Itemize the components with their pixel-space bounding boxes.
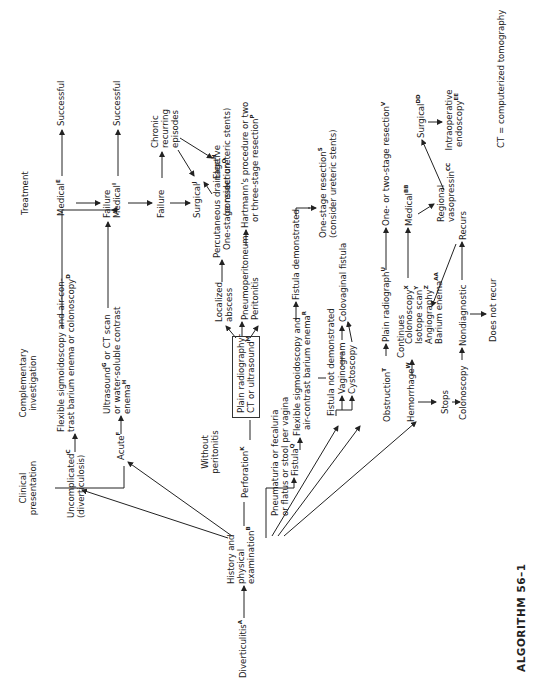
node-chronic-recurring: Chronic recurring episodes — [150, 109, 180, 148]
node-medical-i: MedicalI — [112, 183, 122, 218]
node-localized-abscess: Localized abscess — [214, 282, 234, 322]
node-flexible-sigmoidoscopy-2: Flexible sigmoidoscopy and air-contrast … — [292, 311, 312, 436]
node-pneumaturia: Pneumaturia or fecaluria or flatus or st… — [270, 397, 290, 516]
node-failure-2: Failure — [156, 190, 166, 218]
node-regional-vasopressin: Regional vasopressinCC — [436, 163, 456, 222]
node-fistula: FistulaQ — [290, 444, 300, 476]
node-history-physical: History and physical examinationB — [226, 526, 256, 584]
node-fistula-demonstrated: Fistula demonstrated — [291, 209, 301, 300]
algorithm-flowchart: Clinical presentation Complementary inve… — [0, 0, 537, 678]
node-hartmann: Hartmann's procedure or two or three-sta… — [240, 102, 260, 228]
node-colonoscopy: Colonoscopy — [458, 365, 468, 420]
node-recurs: Recurs — [458, 211, 468, 240]
node-successful-2: Successful — [112, 81, 122, 126]
node-plain-radiograph: Plain radiographU — [381, 267, 391, 342]
node-cystoscopy: Cystoscopy — [347, 345, 357, 394]
node-acute: AcuteF — [116, 432, 126, 460]
node-failure-1: Failure — [102, 190, 112, 218]
node-flexible-sigmoidoscopy: Flexible sigmoidoscopy and air-con- tras… — [56, 274, 76, 432]
node-obstruction: ObstructionT — [382, 368, 392, 422]
footnote-ct: CT = computerized tomography — [496, 10, 506, 148]
node-colonoscopy-x: ColonoscopyX Isotope scanY AngiographyZ … — [404, 272, 444, 344]
node-one-stage-resection-s: One-stage resectionS (consider ureteric … — [318, 129, 338, 238]
node-fistula-not-demonstrated: Fistula not demonstrated — [326, 308, 336, 416]
node-stops: Stops — [440, 390, 450, 414]
header-treatment: Treatment — [20, 171, 30, 215]
node-successful-1: Successful — [56, 81, 66, 126]
node-does-not-recur: Does not recur — [488, 278, 498, 342]
header-clinical-presentation: Clinical presentation — [18, 453, 38, 523]
node-uncomplicated: UncomplicatedC (diverticulosis) — [66, 450, 86, 518]
node-medical-bb: MedicalBB — [404, 185, 414, 226]
header-without-peritonitis: Without peritonitis — [200, 422, 220, 482]
imaging-box: Plain radiographyL CT or ultrasoundM — [232, 336, 260, 418]
node-vaginogram: Vaginogram — [337, 342, 347, 394]
node-surgical-dd: SurgicalDD — [416, 94, 426, 138]
node-surgical-j: SurgicalJ — [192, 181, 202, 218]
node-medical-e: MedicalE — [56, 179, 66, 216]
node-colovaginal-fistula: Colovaginal fistula — [338, 243, 348, 322]
node-one-two-stage-resection: One- or two-stage resectionV — [381, 102, 391, 226]
node-pneumoperitoneum: Pneumoperitoneum Peritonitis — [240, 235, 260, 320]
node-intraoperative-endoscopy: Intraoperative endoscopyEE — [444, 88, 464, 152]
algorithm-title: ALGORITHM 56–1 — [516, 563, 526, 672]
node-nondiagnostic: Nondiagnostic — [458, 285, 468, 346]
node-ultrasound: UltrasoundG or CT scan or water-soluble … — [102, 307, 132, 414]
header-complementary-investigation: Complementary investigation — [18, 338, 38, 428]
node-percutaneous-drainage: Percutaneous drainageN One-stage resecti… — [212, 154, 232, 258]
node-hemorrhage: HemorrhageW — [406, 362, 416, 422]
node-diverticulitis: DiverticulitisA — [238, 620, 248, 678]
node-perforation: PerforationK — [240, 446, 250, 498]
